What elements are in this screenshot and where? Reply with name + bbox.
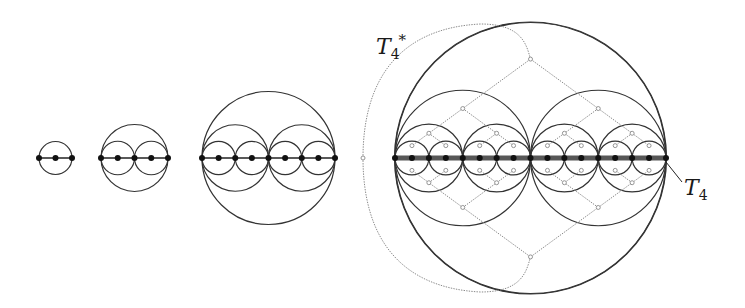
dual-node [461, 107, 465, 111]
vertex-dot [494, 155, 500, 161]
dual-node [579, 168, 583, 172]
dual-edge [463, 207, 531, 256]
dual-node [478, 168, 482, 172]
vertex-dot [511, 155, 517, 161]
dual-node [512, 144, 516, 148]
vertex-dot [332, 155, 338, 161]
vertex-dot [282, 155, 288, 161]
dual-node [461, 205, 465, 209]
vertex-dot [646, 155, 652, 161]
vertex-dot [69, 155, 75, 161]
vertex-dot [132, 155, 138, 161]
dual-node [630, 181, 634, 185]
dual-node [512, 168, 516, 172]
dual-node [613, 168, 617, 172]
dual-node [427, 131, 431, 135]
dual-node [444, 144, 448, 148]
dual-node [647, 144, 651, 148]
dual-node [529, 255, 533, 259]
vertex-dot [232, 155, 238, 161]
vertex-dot [98, 155, 104, 161]
dual-edge [598, 183, 632, 208]
vertex-dot [53, 155, 59, 161]
dual-edge [463, 183, 497, 208]
vertex-dot [460, 155, 466, 161]
vertex-dot [199, 155, 205, 161]
dual-node [562, 131, 566, 135]
label-t4-star-base: T [376, 34, 391, 59]
vertex-dot [544, 155, 550, 161]
dual-node [410, 168, 414, 172]
label-t4-pointer [666, 162, 682, 182]
dual-hull-bottom [363, 158, 531, 292]
dual-node [596, 107, 600, 111]
dual-node [630, 131, 634, 135]
dual-node [562, 181, 566, 185]
dual-node [647, 168, 651, 172]
figure-level-1 [36, 142, 75, 175]
label-t4-sub: 4 [699, 187, 708, 203]
vertex-dot [216, 155, 222, 161]
label-t4-base: T [684, 175, 699, 200]
dual-edge [429, 183, 463, 208]
dual-node [596, 205, 600, 209]
vertex-dot [561, 155, 567, 161]
vertex-dot [443, 155, 449, 161]
dual-edge [598, 109, 632, 134]
vertex-dot [595, 155, 601, 161]
figure-level-4 [361, 22, 669, 294]
label-t4-star: T4* [376, 33, 406, 61]
dual-node [410, 144, 414, 148]
vertex-dot [148, 155, 154, 161]
vertex-dot [629, 155, 635, 161]
dual-edge [564, 183, 598, 208]
dual-edge [531, 59, 599, 108]
vertex-dot [409, 155, 415, 161]
dual-node [545, 168, 549, 172]
vertex-dot [528, 155, 534, 161]
figure-level-2 [98, 125, 171, 192]
dual-node [361, 156, 365, 160]
dual-edge [564, 109, 598, 134]
dual-node [613, 144, 617, 148]
vertex-dot [477, 155, 483, 161]
vertex-dot [578, 155, 584, 161]
dual-node [545, 144, 549, 148]
dual-node [427, 181, 431, 185]
vertex-dot [315, 155, 321, 161]
vertex-dot [426, 155, 432, 161]
dual-node [495, 131, 499, 135]
figure-level-3 [199, 92, 338, 225]
vertex-dot [299, 155, 305, 161]
vertex-dot [392, 155, 398, 161]
dual-edge [531, 207, 599, 256]
dual-node [495, 181, 499, 185]
dual-edge [463, 109, 497, 134]
vertex-dot [249, 155, 255, 161]
dual-node [444, 168, 448, 172]
dual-node [579, 144, 583, 148]
diagram-canvas [0, 0, 745, 308]
dual-edge [429, 109, 463, 134]
vertex-dot [663, 155, 669, 161]
label-t4-star-sup: * [399, 31, 407, 49]
vertex-dot [612, 155, 618, 161]
vertex-dot [266, 155, 272, 161]
vertex-dot [165, 155, 171, 161]
vertex-dot [115, 155, 121, 161]
dual-node [478, 144, 482, 148]
dual-node [529, 57, 533, 61]
vertex-dot [36, 155, 42, 161]
dual-edge [463, 59, 531, 108]
label-t4: T4 [684, 177, 708, 202]
